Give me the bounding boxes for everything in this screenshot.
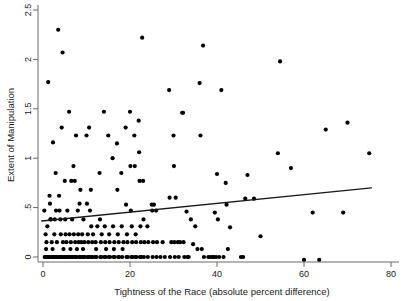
data-point bbox=[117, 240, 121, 244]
data-point bbox=[65, 208, 69, 212]
data-point bbox=[44, 240, 48, 244]
data-point bbox=[341, 210, 345, 214]
data-point bbox=[278, 59, 282, 63]
data-point bbox=[228, 225, 232, 229]
data-point bbox=[50, 247, 54, 251]
data-point bbox=[198, 133, 202, 137]
data-point bbox=[72, 232, 76, 236]
data-point bbox=[76, 208, 80, 212]
data-point bbox=[51, 140, 55, 144]
data-point bbox=[106, 133, 110, 137]
data-point bbox=[145, 224, 149, 228]
data-point bbox=[46, 80, 50, 84]
data-point bbox=[57, 208, 61, 212]
data-point bbox=[345, 121, 349, 125]
data-point bbox=[56, 28, 60, 32]
data-point bbox=[103, 224, 107, 228]
data-point bbox=[85, 202, 89, 206]
data-point bbox=[201, 43, 205, 47]
data-point bbox=[163, 255, 167, 259]
data-point bbox=[177, 255, 181, 259]
data-point bbox=[81, 217, 85, 221]
data-point bbox=[71, 164, 75, 168]
data-point bbox=[112, 240, 116, 244]
data-point bbox=[128, 110, 132, 114]
data-point bbox=[158, 255, 162, 259]
data-point bbox=[200, 247, 204, 251]
data-point bbox=[245, 173, 249, 177]
data-point bbox=[115, 188, 119, 192]
data-point bbox=[80, 232, 84, 236]
y-tick-label: .5 bbox=[23, 204, 33, 212]
data-point bbox=[302, 258, 306, 262]
x-tick-label: 40 bbox=[212, 269, 222, 279]
y-tick-label: 2.5 bbox=[23, 4, 33, 17]
data-point bbox=[100, 232, 104, 236]
data-point bbox=[189, 217, 193, 221]
data-point bbox=[45, 224, 49, 228]
plot-canvas: 020406080 0.511.522.5 Tightness of the R… bbox=[0, 0, 404, 301]
data-point bbox=[107, 232, 111, 236]
data-point bbox=[198, 81, 202, 85]
data-point bbox=[241, 255, 245, 259]
y-tick-label: 0 bbox=[23, 254, 33, 259]
data-point bbox=[91, 232, 95, 236]
y-axis-title: Extent of Manipulation bbox=[5, 88, 16, 182]
data-point bbox=[89, 188, 93, 192]
data-point bbox=[141, 179, 145, 183]
data-point bbox=[317, 258, 321, 262]
data-point bbox=[134, 232, 138, 236]
regression-line bbox=[42, 188, 372, 221]
data-point bbox=[146, 240, 150, 244]
data-point bbox=[94, 240, 98, 244]
x-tick-label: 20 bbox=[125, 269, 135, 279]
y-axis-ticks: 0.511.522.5 bbox=[23, 4, 38, 260]
data-point bbox=[324, 127, 328, 131]
data-point bbox=[151, 240, 155, 244]
data-point bbox=[84, 133, 88, 137]
data-point bbox=[47, 194, 51, 198]
data-point bbox=[168, 255, 172, 259]
data-point bbox=[181, 111, 185, 115]
data-point bbox=[125, 240, 129, 244]
data-point bbox=[138, 224, 142, 228]
data-point bbox=[50, 240, 54, 244]
data-point bbox=[184, 209, 188, 213]
data-point bbox=[154, 255, 158, 259]
data-point bbox=[76, 232, 80, 236]
data-point bbox=[215, 172, 219, 176]
data-point bbox=[195, 247, 199, 251]
data-point bbox=[289, 166, 293, 170]
data-point bbox=[276, 151, 280, 155]
data-point bbox=[142, 240, 146, 244]
data-point bbox=[111, 224, 115, 228]
data-point bbox=[193, 224, 197, 228]
data-point bbox=[52, 232, 56, 236]
data-point bbox=[86, 232, 90, 236]
data-point bbox=[172, 164, 176, 168]
data-point bbox=[221, 255, 225, 259]
data-point bbox=[55, 240, 59, 244]
data-point bbox=[134, 240, 138, 244]
data-point bbox=[202, 255, 206, 259]
data-point bbox=[86, 240, 90, 244]
data-point bbox=[48, 202, 52, 206]
data-point bbox=[142, 255, 146, 259]
data-point bbox=[97, 171, 101, 175]
data-point bbox=[116, 232, 120, 236]
data-point bbox=[181, 240, 185, 244]
data-point bbox=[130, 240, 134, 244]
data-point bbox=[367, 151, 371, 155]
data-point bbox=[124, 203, 128, 207]
data-point bbox=[258, 234, 262, 238]
data-point bbox=[167, 196, 171, 200]
data-point bbox=[173, 255, 177, 259]
data-point bbox=[120, 255, 124, 259]
scatter-plot-figure: 020406080 0.511.522.5 Tightness of the R… bbox=[0, 0, 404, 301]
data-point bbox=[44, 232, 48, 236]
data-point bbox=[217, 255, 221, 259]
data-point bbox=[77, 202, 81, 206]
x-axis-title: Tightness of the Race (absolute percent … bbox=[114, 286, 329, 297]
data-point bbox=[124, 125, 128, 129]
data-point bbox=[89, 224, 93, 228]
